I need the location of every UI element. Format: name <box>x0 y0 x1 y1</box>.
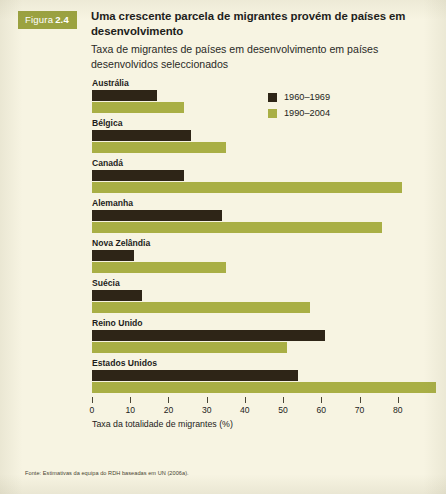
bar-group-label: Alemanha <box>92 199 133 208</box>
chart-subtitle: Taxa de migrantes de países em desenvolv… <box>91 42 432 70</box>
bar-group: Alemanha <box>92 199 436 236</box>
legend-swatch-older <box>268 93 277 102</box>
axis-tick-label: 40 <box>240 405 250 415</box>
bar-pair <box>92 130 436 154</box>
axis-tick-label: 70 <box>355 405 365 415</box>
axis-tick <box>321 397 322 403</box>
axis-tick-label: 30 <box>202 405 212 415</box>
bar-older <box>92 90 157 101</box>
bar-older <box>92 130 191 141</box>
axis-tick <box>207 397 208 403</box>
bar-group-label: Suécia <box>92 279 120 288</box>
title-block: Uma crescente parcela de migrantes prové… <box>91 9 432 71</box>
bar-group-label: Bélgica <box>92 119 123 128</box>
axis-tick-label: 20 <box>164 405 174 415</box>
legend-label-newer: 1990–2004 <box>284 108 330 118</box>
bar-group-label: Reino Unido <box>92 319 143 328</box>
bar-newer <box>92 142 226 153</box>
bar-older <box>92 370 298 381</box>
bar-newer <box>92 302 310 313</box>
bar-newer <box>92 222 382 233</box>
bars-container: AustráliaBélgicaCanadáAlemanhaNova Zelân… <box>92 79 436 397</box>
legend-item-1990-2004: 1990–2004 <box>268 108 330 118</box>
bar-group: Canadá <box>92 159 436 196</box>
bar-group-label: Estados Unidos <box>92 359 157 368</box>
bar-group: Suécia <box>92 279 436 316</box>
bar-older <box>92 330 325 341</box>
figure-card: Figura2.4 Uma crescente parcela de migra… <box>0 0 446 494</box>
axis-tick-label: 0 <box>90 405 95 415</box>
axis-tick <box>398 397 399 403</box>
legend-label-older: 1960–1969 <box>284 92 330 102</box>
bar-pair <box>92 170 436 194</box>
axis-tick-label: 50 <box>278 405 288 415</box>
source-note: Fonte: Estimativas da equipa do RDH base… <box>25 470 189 476</box>
page-title: Uma crescente parcela de migrantes prové… <box>91 9 432 39</box>
bar-group: Austrália <box>92 79 436 116</box>
bar-older <box>92 170 184 181</box>
x-axis: 01020304050607080 Taxa da totalidade de … <box>92 397 436 443</box>
bar-pair <box>92 370 436 394</box>
chart-plot-area: AustráliaBélgicaCanadáAlemanhaNova Zelân… <box>0 79 446 397</box>
axis-tick-label: 10 <box>125 405 135 415</box>
bar-pair <box>92 330 436 354</box>
bar-older <box>92 210 222 221</box>
axis-tick <box>360 397 361 403</box>
x-axis-label: Taxa da totalidade de migrantes (%) <box>92 419 233 429</box>
axis-tick <box>168 397 169 403</box>
axis-tick <box>130 397 131 403</box>
figure-number-badge: Figura2.4 <box>18 11 77 29</box>
chart-legend: 1960–1969 1990–2004 <box>268 92 330 124</box>
bar-group: Reino Unido <box>92 319 436 356</box>
bar-pair <box>92 290 436 314</box>
bar-newer <box>92 262 226 273</box>
bar-pair <box>92 210 436 234</box>
bar-group: Nova Zelândia <box>92 239 436 276</box>
bar-newer <box>92 342 287 353</box>
axis-tick-label: 60 <box>317 405 327 415</box>
bar-newer <box>92 102 184 113</box>
bar-pair <box>92 250 436 274</box>
bar-group-label: Canadá <box>92 159 123 168</box>
bar-group-label: Austrália <box>92 79 129 88</box>
axis-tick <box>283 397 284 403</box>
legend-swatch-newer <box>268 109 277 118</box>
bar-group: Estados Unidos <box>92 359 436 396</box>
bar-group-label: Nova Zelândia <box>92 239 150 248</box>
axis-tick <box>92 397 93 403</box>
bar-group: Bélgica <box>92 119 436 156</box>
axis-tick-label: 80 <box>393 405 403 415</box>
bar-newer <box>92 182 402 193</box>
axis-tick <box>245 397 246 403</box>
figure-header: Figura2.4 Uma crescente parcela de migra… <box>0 0 446 71</box>
legend-item-1960-1969: 1960–1969 <box>268 92 330 102</box>
bar-newer <box>92 382 436 393</box>
figure-badge-word: Figura <box>25 14 53 25</box>
bar-older <box>92 250 134 261</box>
bar-older <box>92 290 142 301</box>
bar-pair <box>92 90 436 114</box>
figure-badge-number: 2.4 <box>55 14 69 25</box>
